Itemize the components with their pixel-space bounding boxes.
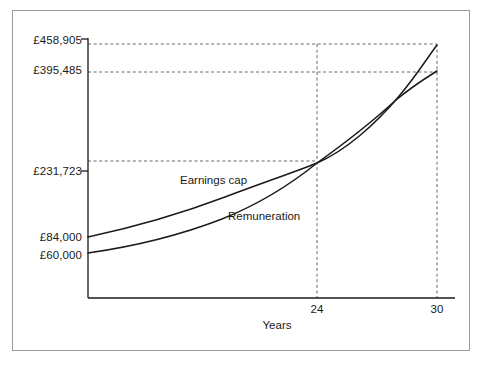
y-tick-label-231723: £231,723 — [8, 165, 82, 177]
x-tick-label-24: 24 — [297, 303, 337, 315]
x-tick-label-30: 30 — [417, 303, 457, 315]
series-line-remuneration — [88, 71, 437, 253]
y-tick-label-60000: £60,000 — [8, 249, 82, 261]
x-axis-title: Years — [237, 319, 317, 331]
y-tick-label-84000: £84,000 — [8, 231, 82, 243]
y-tick-label-458905: £458,905 — [8, 34, 82, 46]
y-tick-label-395485: £395,485 — [8, 64, 82, 76]
series-line-earnings-cap — [88, 45, 437, 237]
chart-figure: £458,905 £395,485 £231,723 £84,000 £60,0… — [0, 0, 484, 365]
series-label-earnings-cap: Earnings cap — [180, 174, 247, 186]
series-label-remuneration: Remuneration — [228, 210, 300, 222]
